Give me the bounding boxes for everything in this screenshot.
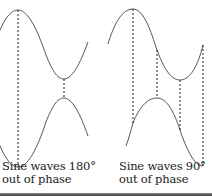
caption-line-2: out of phase (2, 173, 96, 186)
lower-sine-wave (0, 98, 88, 167)
bottom-divider (0, 193, 212, 196)
upper-sine-wave (0, 10, 88, 79)
right-panel-90 (108, 9, 203, 166)
lower-sine-wave (126, 98, 203, 166)
left-panel-180 (0, 10, 88, 167)
caption-180-degrees: Sine waves 180° out of phase (2, 160, 96, 186)
upper-sine-wave (108, 9, 203, 80)
caption-line-2: out of phase (119, 173, 206, 186)
caption-90-degrees: Sine waves 90° out of phase (119, 160, 206, 186)
